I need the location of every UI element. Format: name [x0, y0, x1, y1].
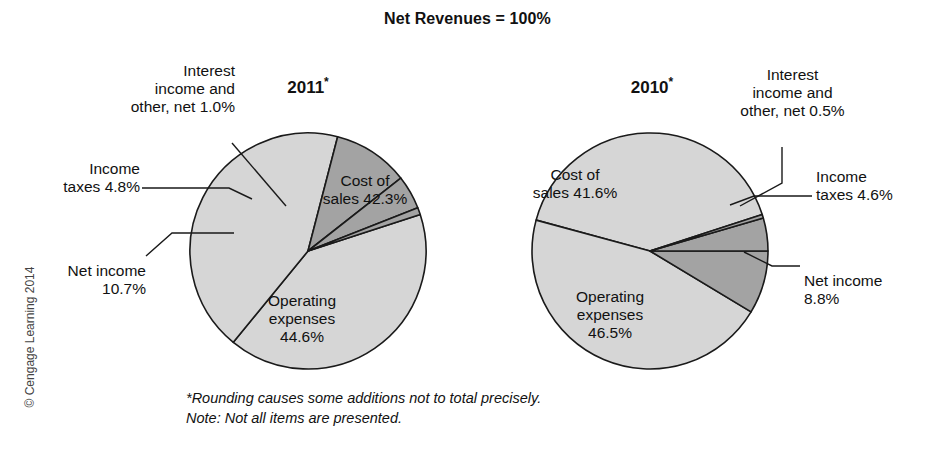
callout-income-taxes-2010: Income taxes 4.6% — [816, 168, 935, 204]
callout-interest-income-2010: Interest income and other, net 0.5% — [700, 66, 885, 120]
slice-label-cost-of-sales-2010: Cost of sales 41.6% — [508, 166, 642, 202]
slice-label-operating-expenses-2010: Operating expenses 46.5% — [540, 288, 680, 342]
slice-label-operating-expenses-2011: Operating expenses 44.6% — [232, 292, 372, 346]
callout-interest-income-2011: Interest income and other, net 1.0% — [60, 62, 235, 116]
figure-footnote: *Rounding causes some additions not to t… — [186, 389, 541, 428]
figure-root: Net Revenues = 100% 2011* 2010* Cost of … — [0, 0, 935, 467]
copyright-notice: © Cengage Learning 2014 — [23, 237, 37, 437]
callout-net-income-2010: Net income 8.8% — [804, 272, 934, 308]
callout-income-taxes-2011: Income taxes 4.8% — [20, 160, 140, 196]
slice-label-cost-of-sales-2011: Cost of sales 42.3% — [300, 172, 430, 208]
